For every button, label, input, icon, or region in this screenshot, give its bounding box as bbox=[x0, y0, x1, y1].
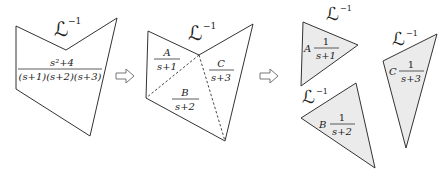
piece-a-operator: ℒ bbox=[326, 3, 339, 24]
step1-operator-exponent: −1 bbox=[68, 16, 81, 26]
partial-fraction-diagram: ℒ −1 s²+4 (s+1)(s+2)(s+3) ℒ −1 A s+1 B s… bbox=[0, 0, 448, 174]
step2-operator: ℒ bbox=[188, 21, 202, 45]
piece-b-operator-exponent: −1 bbox=[316, 87, 328, 96]
step1-shape: ℒ −1 s²+4 (s+1)(s+2)(s+3) bbox=[16, 16, 117, 136]
piece-c-operator: ℒ bbox=[392, 28, 405, 49]
step2-term-a-numerator: A bbox=[162, 47, 170, 58]
step2-term-a-denominator: s+1 bbox=[157, 61, 177, 72]
step1-denominator: (s+1)(s+2)(s+3) bbox=[18, 71, 101, 82]
piece-a-coefficient: A bbox=[303, 43, 311, 54]
arrow-right-icon bbox=[116, 69, 134, 83]
piece-a-denominator: s+1 bbox=[316, 50, 336, 61]
piece-c-numerator: 1 bbox=[408, 59, 414, 70]
piece-c-coefficient: C bbox=[389, 66, 397, 77]
piece-c-operator-exponent: −1 bbox=[406, 29, 418, 38]
step1-operator: ℒ bbox=[54, 17, 68, 41]
step2-shape: ℒ −1 A s+1 B s+2 C s+3 bbox=[146, 21, 253, 141]
step1-numerator: s²+4 bbox=[50, 57, 74, 68]
step2-term-b-numerator: B bbox=[180, 87, 188, 98]
step2-term-c-numerator: C bbox=[217, 58, 225, 69]
piece-c-denominator: s+3 bbox=[401, 73, 421, 84]
piece-b-numerator: 1 bbox=[339, 112, 345, 123]
triangle-c bbox=[383, 34, 437, 148]
piece-a-numerator: 1 bbox=[323, 36, 329, 47]
arrow-right-icon bbox=[260, 69, 278, 83]
step3-piece-a: ℒ −1 A 1 s+1 bbox=[301, 3, 358, 86]
piece-a-operator-exponent: −1 bbox=[340, 4, 352, 13]
step2-term-b-denominator: s+2 bbox=[175, 101, 195, 112]
piece-b-operator: ℒ bbox=[302, 86, 315, 107]
step3-piece-b: ℒ −1 B 1 s+2 bbox=[301, 83, 375, 168]
step3-piece-c: ℒ −1 C 1 s+3 bbox=[383, 28, 437, 148]
piece-b-denominator: s+2 bbox=[332, 126, 352, 137]
step2-operator-exponent: −1 bbox=[203, 21, 216, 31]
step2-term-c-denominator: s+3 bbox=[211, 72, 231, 83]
piece-b-coefficient: B bbox=[318, 119, 326, 130]
